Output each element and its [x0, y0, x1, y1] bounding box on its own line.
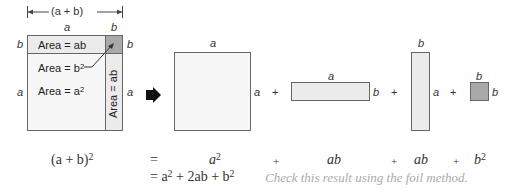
b-square-top-label: b [476, 71, 482, 82]
foil-method-note: Check this result using the foil method. [265, 171, 468, 184]
area-ab-side-label: Area = ab [108, 70, 119, 118]
pointer-arrow-icon [82, 40, 122, 70]
ab-vertical-side-label: a [433, 87, 439, 98]
dimension-label: (a + b) [51, 6, 83, 17]
equation-plus-1: + [273, 156, 279, 167]
equation-expanded-result: = a2 + 2ab + b2 [150, 170, 234, 184]
top-label-a: a [64, 22, 70, 33]
ab-horizontal-rect [291, 82, 370, 101]
right-arrow-icon [146, 87, 162, 103]
top-label-b: b [111, 22, 117, 33]
a-square-top-label: a [210, 38, 216, 49]
area-b-squared-label: Area = b2 [38, 63, 84, 74]
equation-equals: = [150, 153, 158, 167]
ab-horizontal-side-label: b [373, 87, 379, 98]
equation-lhs: (a + b)2 [51, 153, 93, 167]
left-label-a: a [17, 87, 23, 98]
equation-plus-2: + [391, 156, 397, 167]
area-ab-label: Area = ab [38, 40, 86, 51]
area-a-squared-label: Area = a2 [38, 86, 84, 97]
plus-sign-3: + [450, 87, 456, 98]
a-square-side-label: a [254, 87, 260, 98]
plus-sign-1: + [272, 87, 278, 98]
left-label-b: b [17, 39, 23, 50]
equation-term-ab-2: ab [414, 153, 428, 167]
ab-vertical-top-label: b [418, 38, 424, 49]
ab-vertical-rect [411, 52, 430, 131]
equation-term-ab-1: ab [327, 153, 341, 167]
equation-term-a2: a2 [209, 153, 221, 167]
plus-sign-2: + [391, 87, 397, 98]
right-label-b: b [127, 39, 133, 50]
equation-term-b2: b2 [474, 153, 486, 167]
b-square-side-label: b [492, 87, 498, 98]
ab-horizontal-top-label: a [328, 71, 334, 82]
equation-plus-3: + [453, 156, 459, 167]
a-squared-square [174, 52, 251, 131]
right-label-a: a [127, 87, 133, 98]
b-squared-square [470, 82, 489, 101]
